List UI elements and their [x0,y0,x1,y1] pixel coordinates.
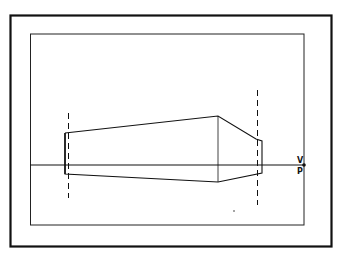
solid-outline [65,116,262,182]
outer-frame [11,16,332,247]
inner-frame [31,34,305,225]
tapered-solid [65,116,262,182]
vanishing-point-label-p: P [297,167,303,176]
stray-dot [233,210,235,212]
perspective-diagram: V P [0,0,342,257]
vanishing-point-label-v: V [297,156,304,165]
